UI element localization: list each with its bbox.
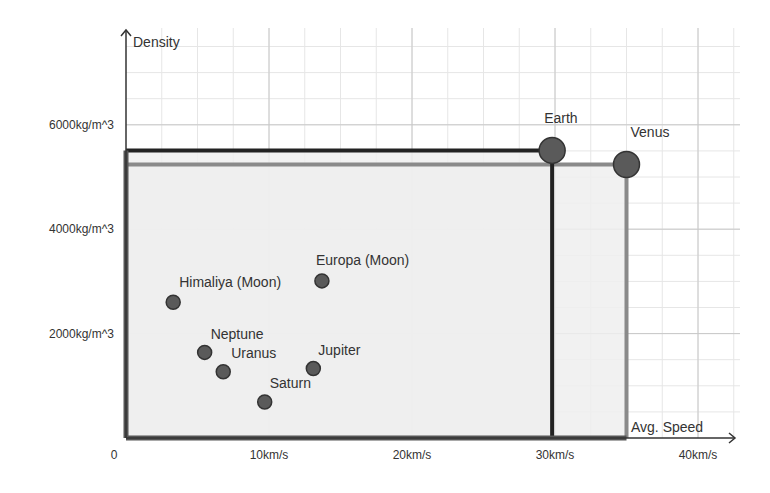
x-axis-title: Avg. Speed [631, 419, 703, 435]
x-tick-label: 20km/s [393, 448, 432, 462]
data-point-neptune [198, 345, 212, 359]
point-label: Uranus [231, 345, 276, 361]
y-tick-label: 4000kg/m^3 [49, 222, 114, 236]
data-point-europa-moon [315, 274, 329, 288]
x-tick-label: 0 [111, 448, 118, 462]
data-point-uranus [216, 365, 230, 379]
y-axis-title: Density [133, 34, 180, 50]
y-tick-label: 6000kg/m^3 [49, 118, 114, 132]
point-label: Europa (Moon) [316, 252, 409, 268]
data-point-jupiter [306, 362, 320, 376]
point-label: Jupiter [318, 342, 360, 358]
point-label: Saturn [270, 375, 311, 391]
point-label: Venus [631, 124, 670, 140]
point-label: Neptune [211, 326, 264, 342]
data-point-saturn [258, 395, 272, 409]
x-tick-label: 10km/s [250, 448, 289, 462]
point-label: Earth [544, 110, 577, 126]
density-vs-speed-chart: 010km/s20km/s30km/s40km/s2000kg/m^34000k… [0, 0, 770, 493]
data-point-venus [614, 151, 640, 177]
highlight-rect-fill [126, 150, 552, 438]
data-point-himaliya-moon [166, 295, 180, 309]
x-tick-label: 40km/s [679, 448, 718, 462]
highlight-rectangles [126, 150, 627, 438]
x-tick-label: 30km/s [536, 448, 575, 462]
data-point-earth [539, 137, 565, 163]
y-tick-label: 2000kg/m^3 [49, 327, 114, 341]
point-label: Himaliya (Moon) [179, 274, 281, 290]
